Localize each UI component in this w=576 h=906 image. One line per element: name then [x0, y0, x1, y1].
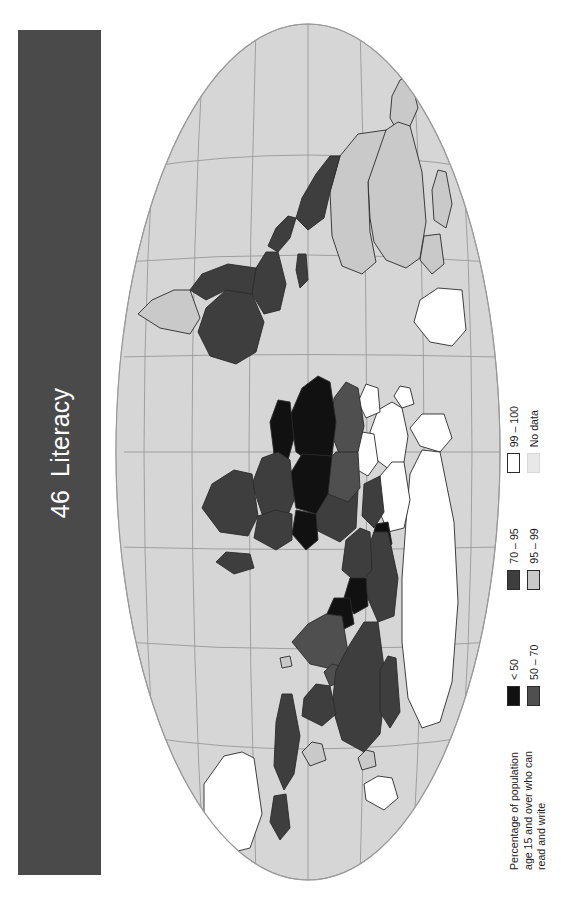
legend-item-lt-50[interactable]: < 50 — [507, 645, 520, 706]
legend-item-no-data[interactable]: No data — [527, 406, 540, 473]
legend-swatch-lt-50 — [507, 686, 520, 706]
page-number: 46 — [45, 489, 73, 517]
page-title-band: 46Literacy — [18, 30, 101, 875]
map-svg — [114, 22, 502, 882]
region-new-zealand — [184, 868, 206, 882]
legend-label-no-data: No data — [528, 410, 540, 447]
legend-item-50-70[interactable]: 50 – 70 — [527, 645, 540, 706]
world-map — [110, 14, 505, 889]
legend-caption-line-2: age 15 and over who can — [522, 720, 536, 870]
legend-column-3: 99 – 100 No data — [507, 406, 540, 473]
legend-label-50-70: 50 – 70 — [528, 645, 540, 680]
legend-item-95-99[interactable]: 95 – 99 — [527, 528, 540, 589]
legend-item-70-95[interactable]: 70 – 95 — [507, 528, 520, 589]
legend-label-95-99: 95 – 99 — [528, 528, 540, 563]
legend-column-2: 70 – 95 95 – 99 — [507, 528, 540, 589]
page-title-text: Literacy — [45, 387, 73, 476]
page-title: 46Literacy — [45, 387, 74, 517]
region-tasmania — [186, 812, 200, 828]
legend-caption-line-3: read and write — [535, 720, 549, 870]
map-rotated-canvas — [114, 22, 502, 882]
legend-item-99-100[interactable]: 99 – 100 — [507, 406, 520, 473]
legend-swatch-70-95 — [507, 570, 520, 590]
legend-swatch-99-100 — [507, 453, 520, 473]
legend-label-lt-50: < 50 — [508, 659, 520, 680]
legend-label-70-95: 70 – 95 — [508, 528, 520, 563]
legend-swatch-50-70 — [527, 686, 540, 706]
legend-caption-line-1: Percentage of population — [508, 720, 522, 870]
legend-rotated-canvas: Percentage of population age 15 and over… — [507, 170, 569, 870]
legend-swatch-no-data — [527, 453, 540, 473]
legend-column-1: < 50 50 – 70 — [507, 645, 540, 706]
region-antarctica — [114, 22, 124, 882]
region-sri-lanka — [280, 656, 292, 668]
legend-swatch-95-99 — [527, 570, 540, 590]
legend-caption: Percentage of population age 15 and over… — [507, 720, 549, 870]
legend-label-99-100: 99 – 100 — [508, 406, 520, 447]
legend-swatch-groups: < 50 50 – 70 70 – 95 95 – 99 — [507, 406, 540, 706]
region-mongolia — [380, 656, 400, 728]
map-legend: Percentage of population age 15 and over… — [505, 150, 571, 890]
